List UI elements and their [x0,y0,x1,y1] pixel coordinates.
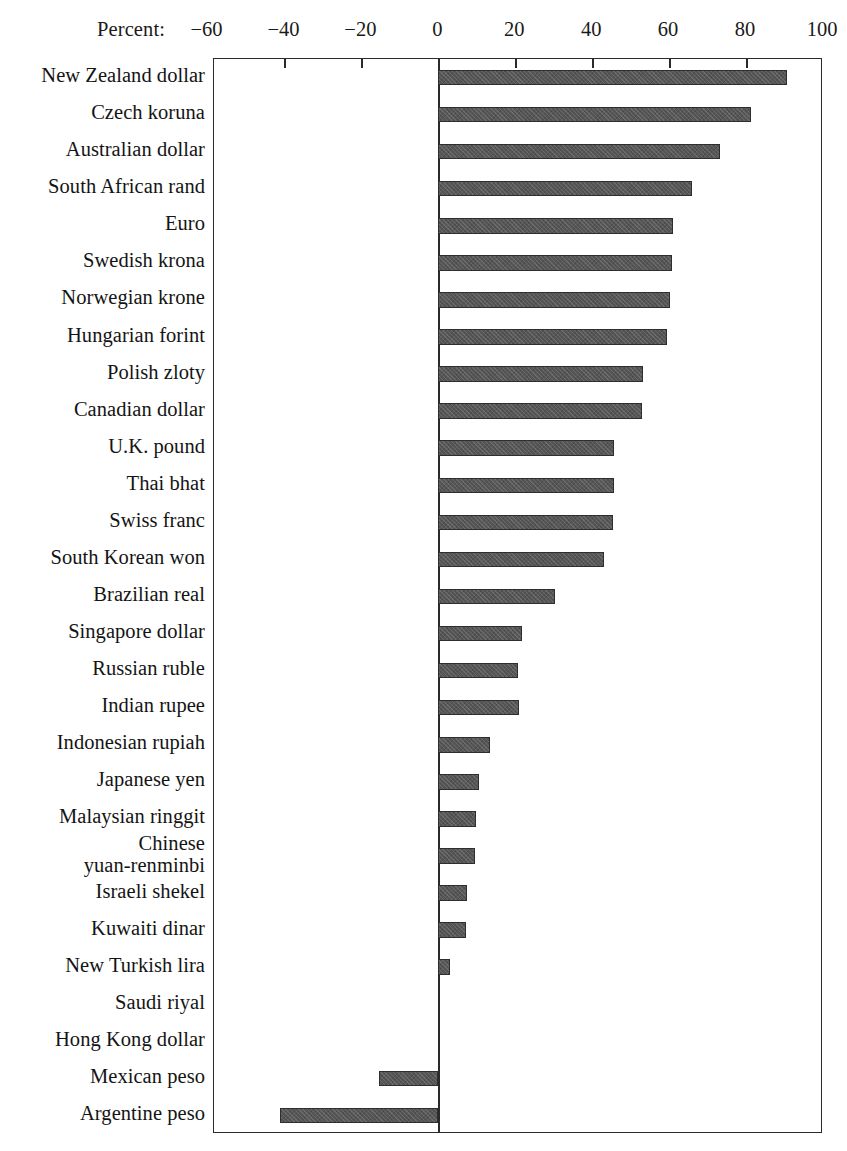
bar [438,440,614,456]
bar [379,1071,438,1087]
category-label: U.K. pound [2,436,205,457]
x-tick-label--40: −40 [267,18,299,41]
bar [438,366,643,382]
category-label: South African rand [2,176,205,197]
category-label: Brazilian real [2,584,205,605]
category-label: Chinese yuan-renminbi [2,833,205,875]
x-tick-label--20: −20 [344,18,376,41]
category-label: Russian ruble [2,658,205,679]
x-tick-label-20: 20 [504,18,525,41]
bar [438,329,667,345]
bar [438,922,466,938]
category-label: Hong Kong dollar [2,1029,205,1050]
x-tick-label-100: 100 [807,18,838,41]
x-tick-label-0: 0 [432,18,442,41]
category-label: Saudi riyal [2,992,205,1013]
bar [438,663,518,679]
category-label: Singapore dollar [2,621,205,642]
bar [438,70,787,86]
category-label: Norwegian krone [2,287,205,308]
axis-header: Percent: −60−40−20020406080100 [0,18,847,52]
bar [438,589,555,605]
plot-area [213,58,822,1133]
bar [438,885,467,901]
bar [438,811,476,827]
bar [438,218,673,234]
bar [438,774,479,790]
category-label: Kuwaiti dinar [2,918,205,939]
category-label: Euro [2,213,205,234]
x-tick-mark-60 [669,59,671,68]
bar [438,737,490,753]
category-label: Canadian dollar [2,399,205,420]
category-label: Swiss franc [2,510,205,531]
bar [438,626,522,642]
x-tick-label-40: 40 [581,18,602,41]
x-tick-mark-40 [592,59,594,68]
category-label: Argentine peso [2,1103,205,1124]
x-tick-mark-20 [515,59,517,68]
bar [438,255,672,271]
bar [438,700,519,716]
bar [438,848,475,864]
bar [438,403,642,419]
bar [438,181,692,197]
currency-percent-change-bar-chart: Percent: −60−40−20020406080100 New Zeala… [0,0,847,1151]
category-label: Indonesian rupiah [2,732,205,753]
category-label: Polish zloty [2,362,205,383]
x-tick-mark--40 [284,59,286,68]
bar [438,107,750,123]
category-label: Israeli shekel [2,881,205,902]
category-label: Swedish krona [2,250,205,271]
category-label: Japanese yen [2,769,205,790]
category-label: South Korean won [2,547,205,568]
category-label: Hungarian forint [2,325,205,346]
bar [280,1108,438,1124]
category-label: Indian rupee [2,695,205,716]
category-label: Australian dollar [2,139,205,160]
x-tick-mark-80 [746,59,748,68]
bar [438,552,604,568]
bar [438,478,613,494]
category-label: Thai bhat [2,473,205,494]
category-label: New Zealand dollar [2,65,205,86]
category-label: Mexican peso [2,1066,205,1087]
category-label: Czech koruna [2,102,205,123]
x-tick-label-60: 60 [658,18,679,41]
bar [438,959,450,975]
x-tick-label--60: −60 [190,18,222,41]
x-tick-mark--20 [361,59,363,68]
bar [438,292,669,308]
bar [438,144,720,160]
category-label: New Turkish lira [2,955,205,976]
x-tick-label-80: 80 [735,18,756,41]
category-label: Malaysian ringgit [2,806,205,827]
axis-label-percent: Percent: [97,18,165,41]
bar [438,515,613,531]
